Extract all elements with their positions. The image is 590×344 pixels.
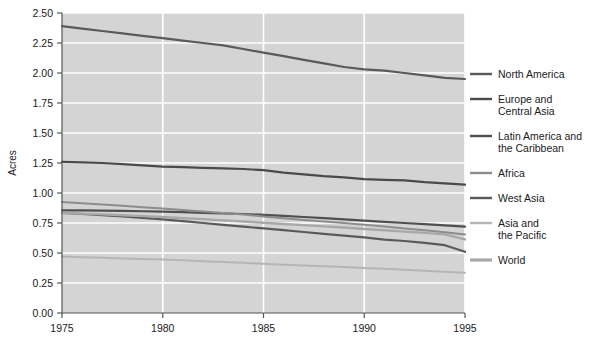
x-tick-label: 1990 (353, 322, 377, 334)
legend-label: Central Asia (498, 105, 555, 117)
y-tick-label: 2.00 (33, 67, 54, 79)
legend-label: the Pacific (498, 229, 546, 241)
y-tick-label: 0.75 (33, 217, 54, 229)
x-tick-label: 1980 (151, 322, 175, 334)
x-tick-label: 1995 (453, 322, 477, 334)
y-tick-label: 2.50 (33, 7, 54, 19)
chart-canvas: 0.000.250.500.751.001.251.501.752.002.25… (0, 0, 590, 344)
x-tick-label: 1985 (252, 322, 276, 334)
line-chart: 0.000.250.500.751.001.251.501.752.002.25… (0, 0, 590, 344)
y-tick-label: 1.25 (33, 157, 54, 169)
legend-label: Asia and (498, 217, 539, 229)
y-tick-label: 0.00 (33, 307, 54, 319)
y-tick-label: 2.25 (33, 37, 54, 49)
y-tick-label: 0.25 (33, 277, 54, 289)
legend-label: Africa (498, 167, 525, 179)
legend-label: Europe and (498, 93, 552, 105)
x-tick-label: 1975 (50, 322, 74, 334)
y-tick-label: 0.50 (33, 247, 54, 259)
legend-label: Latin America and (498, 130, 582, 142)
y-tick-label: 1.75 (33, 97, 54, 109)
legend-label: North America (498, 68, 565, 80)
y-tick-label: 1.00 (33, 187, 54, 199)
legend-label: World (498, 254, 525, 266)
legend-label: West Asia (498, 192, 545, 204)
y-tick-label: 1.50 (33, 127, 54, 139)
legend-label: the Caribbean (498, 142, 564, 154)
y-axis-title: Acres (7, 150, 18, 176)
